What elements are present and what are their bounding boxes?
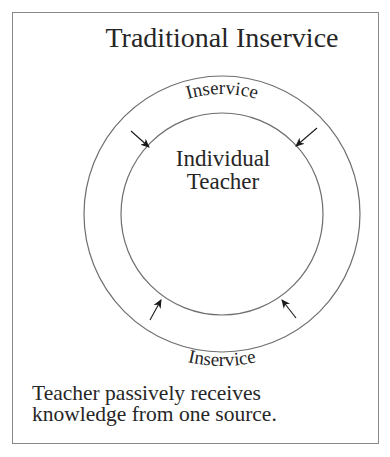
arrow-bottom-right-icon [282, 300, 296, 318]
center-label-line1: Individual [122, 147, 324, 170]
arrow-top-right-icon [296, 128, 317, 146]
caption-line1: Teacher passively receives [32, 383, 277, 404]
center-label-line2: Teacher [122, 170, 324, 193]
ring-label-bottom: Inservice [187, 345, 258, 370]
inner-teacher-circle [121, 113, 323, 315]
outer-ring-circle [84, 76, 360, 352]
arrow-top-left-icon [131, 131, 149, 147]
individual-teacher-label: Individual Teacher [122, 147, 324, 193]
ring-label-top: Inservice [183, 77, 260, 103]
arrow-bottom-left-icon [150, 300, 161, 320]
diagram-caption: Teacher passively receives knowledge fro… [32, 383, 277, 425]
caption-line2: knowledge from one source. [32, 404, 277, 425]
